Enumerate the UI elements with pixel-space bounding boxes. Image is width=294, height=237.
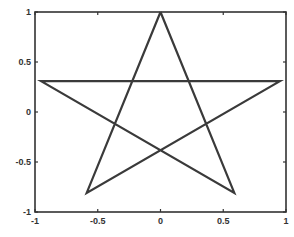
y-tick-label: -0.5	[15, 157, 31, 167]
axes-frame	[35, 12, 286, 212]
y-tick-label: -1	[23, 207, 31, 217]
data-series	[41, 12, 280, 193]
plot-box	[35, 12, 286, 212]
x-tick-label: -0.5	[90, 216, 106, 226]
star-plot: -1-0.500.51-1-0.500.51	[0, 0, 294, 237]
axis-tick-labels: -1-0.500.51-1-0.500.51	[15, 7, 288, 226]
y-tick-label: 0.5	[18, 57, 31, 67]
x-tick-label: 0	[158, 216, 163, 226]
y-tick-label: 0	[26, 107, 31, 117]
x-tick-label: 0.5	[217, 216, 230, 226]
x-tick-label: -1	[31, 216, 39, 226]
y-tick-label: 1	[26, 7, 31, 17]
axis-ticks	[35, 12, 286, 212]
star-line	[41, 12, 280, 193]
x-tick-label: 1	[283, 216, 288, 226]
